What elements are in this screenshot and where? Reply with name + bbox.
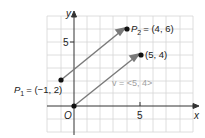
point-end xyxy=(138,52,143,57)
point-p2 xyxy=(124,26,129,31)
points xyxy=(58,26,143,108)
y-axis-label: y xyxy=(65,8,72,19)
origin-label: O xyxy=(64,110,72,121)
vector-label: v = <5, 4> xyxy=(112,78,152,88)
vector-p1-p2 xyxy=(61,32,120,80)
vector-diagram: y x O 5 5 P2= (4, 6) (5, 4) P1= (−1, 2) … xyxy=(0,0,205,138)
x-axis-label: x xyxy=(193,110,200,121)
end-point-label: (5, 4) xyxy=(145,49,167,60)
p2-label: P2= (4, 6) xyxy=(131,23,174,36)
point-p1 xyxy=(58,77,63,82)
p1-label: P1= (−1, 2) xyxy=(14,84,62,97)
point-origin xyxy=(71,103,76,108)
x-axis-arrow-icon xyxy=(193,104,199,109)
x-tick-label: 5 xyxy=(137,110,143,121)
y-axis-arrow-icon xyxy=(72,11,77,17)
y-tick-label: 5 xyxy=(63,37,69,48)
